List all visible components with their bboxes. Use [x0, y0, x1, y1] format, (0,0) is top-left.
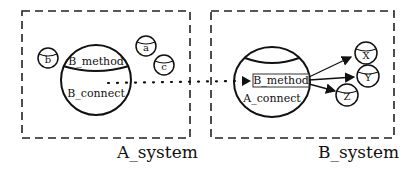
b-method-label: B_method	[253, 74, 309, 87]
object-a: a	[136, 36, 156, 56]
object-z: Z	[336, 84, 358, 106]
b-component-bottom-label: A_connect	[242, 92, 301, 105]
svg-text:b: b	[45, 54, 51, 65]
object-c: c	[154, 55, 174, 75]
svg-text:c: c	[161, 61, 167, 72]
arrow-to-y	[309, 77, 354, 80]
arrow-to-x	[309, 57, 351, 77]
a-component: B_method B_connect	[61, 45, 131, 115]
dotted-connection	[108, 81, 236, 83]
svg-text:Y: Y	[364, 72, 372, 83]
svg-text:a: a	[143, 42, 149, 53]
object-y: Y	[357, 65, 379, 87]
svg-text:X: X	[362, 50, 370, 61]
svg-text:Z: Z	[344, 91, 351, 102]
object-b: b	[38, 48, 58, 68]
a-component-bottom-label: B_connect	[67, 87, 125, 100]
object-x: X	[355, 42, 377, 64]
connection-arrowhead	[242, 76, 251, 86]
b-system-label: B_system	[318, 142, 399, 162]
a-component-top-label: B_method	[68, 55, 124, 68]
arrow-to-z	[309, 84, 335, 91]
a-system-label: A_system	[117, 142, 198, 162]
